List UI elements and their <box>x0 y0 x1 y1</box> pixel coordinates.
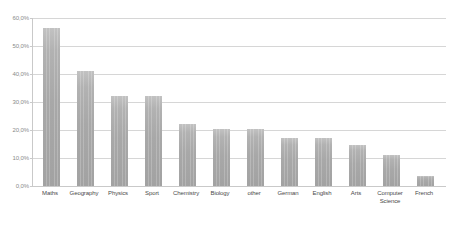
plot-area: 0,0%10,0%20,0%30,0%40,0%50,0%60,0% <box>32 18 445 186</box>
gridline-600 <box>33 18 446 19</box>
y-axis-tick-label: 60,0% <box>12 15 29 21</box>
bar-physics <box>111 96 128 186</box>
bar-arts <box>349 145 366 186</box>
bar-computer-science <box>383 155 400 186</box>
y-axis-tick-label: 40,0% <box>12 71 29 77</box>
y-tick-mark <box>30 102 33 103</box>
y-tick-mark <box>30 46 33 47</box>
bar-chart: 0,0%10,0%20,0%30,0%40,0%50,0%60,0% Maths… <box>0 0 460 227</box>
y-axis-tick-label: 10,0% <box>12 155 29 161</box>
bar-chemistry <box>179 124 196 186</box>
gridline-500 <box>33 46 446 47</box>
bar-biology <box>213 129 230 186</box>
y-axis-tick-label: 30,0% <box>12 99 29 105</box>
y-axis-tick-label: 50,0% <box>12 43 29 49</box>
bar-maths <box>43 28 60 186</box>
y-tick-mark <box>30 186 33 187</box>
bar-english <box>315 138 332 186</box>
gridline-00 <box>33 186 446 187</box>
bar-geography <box>77 71 94 186</box>
y-axis-tick-label: 0,0% <box>16 183 29 189</box>
bar-sport <box>145 96 162 186</box>
gridline-200 <box>33 130 446 131</box>
bar-other <box>247 129 264 186</box>
bar-german <box>281 138 298 186</box>
y-tick-mark <box>30 130 33 131</box>
x-axis-label-french: French <box>401 190 447 198</box>
y-axis-tick-label: 20,0% <box>12 127 29 133</box>
y-tick-mark <box>30 158 33 159</box>
y-tick-mark <box>30 74 33 75</box>
gridline-400 <box>33 74 446 75</box>
bar-french <box>417 176 434 186</box>
y-tick-mark <box>30 18 33 19</box>
gridline-300 <box>33 102 446 103</box>
